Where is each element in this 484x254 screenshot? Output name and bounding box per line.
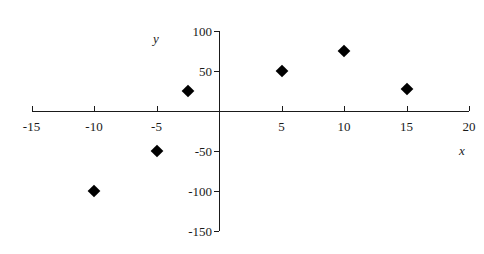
data-point-marker [400, 83, 413, 96]
scatter-chart: y x -15-10-55101520 -150-100-5050100 [0, 0, 484, 254]
data-point-marker [181, 85, 194, 98]
data-point-marker [275, 65, 288, 78]
data-points-layer [0, 0, 484, 254]
data-point-marker [338, 45, 351, 58]
data-point-marker [150, 145, 163, 158]
data-point-marker [88, 185, 101, 198]
